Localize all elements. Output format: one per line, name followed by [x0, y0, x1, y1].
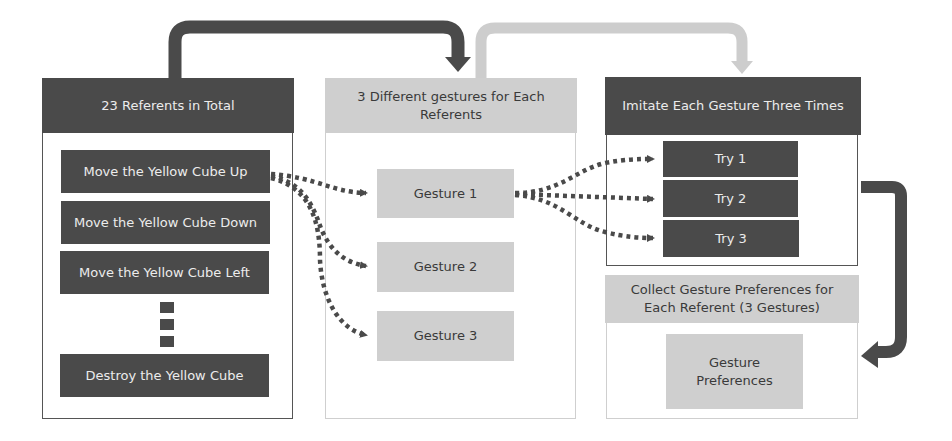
referent-item-label: Move the Yellow Cube Left: [79, 264, 250, 282]
preferences-header-label: Collect Gesture Preferences for Each Ref…: [619, 281, 845, 317]
gestures-header-label: 3 Different gestures for Each Referents: [335, 88, 567, 124]
gesture-item-2: Gesture 2: [377, 242, 514, 292]
referent-item-label: Move the Yellow Cube Down: [74, 214, 257, 232]
try-item-2: Try 2: [663, 180, 798, 217]
imitation-header: Imitate Each Gesture Three Times: [605, 77, 861, 135]
preferences-header: Collect Gesture Preferences for Each Ref…: [605, 275, 859, 323]
gesture-item-label: Gesture 1: [414, 185, 478, 203]
arrow-stage1-to-stage2-icon: [175, 27, 471, 78]
arrow-stage2-to-stage3-icon: [481, 28, 753, 78]
referent-item-move-up: Move the Yellow Cube Up: [61, 150, 270, 193]
try-item-3: Try 3: [663, 220, 799, 257]
referent-item-move-down: Move the Yellow Cube Down: [61, 201, 270, 244]
gesture-item-3: Gesture 3: [377, 311, 514, 361]
referents-header: 23 Referents in Total: [42, 78, 294, 133]
gesture-item-label: Gesture 3: [414, 327, 478, 345]
arrow-stage3-to-stage4-icon: [861, 187, 901, 368]
gesture-preferences-label: Gesture Preferences: [696, 354, 773, 390]
referent-item-label: Move the Yellow Cube Up: [83, 163, 247, 181]
ellipsis-dot-icon: [160, 336, 174, 347]
gesture-item-1: Gesture 1: [377, 169, 514, 218]
ellipsis-dot-icon: [160, 302, 174, 313]
gesture-preferences-box: Gesture Preferences: [666, 334, 803, 409]
try-item-label: Try 3: [715, 230, 746, 248]
try-item-label: Try 1: [715, 150, 746, 168]
referents-header-label: 23 Referents in Total: [101, 97, 234, 115]
try-item-1: Try 1: [663, 141, 798, 177]
try-item-label: Try 2: [715, 190, 746, 208]
gestures-header: 3 Different gestures for Each Referents: [325, 78, 577, 133]
gesture-item-label: Gesture 2: [414, 258, 478, 276]
referent-item-label: Destroy the Yellow Cube: [86, 367, 244, 385]
referent-item-move-left: Move the Yellow Cube Left: [60, 251, 269, 294]
ellipsis-dot-icon: [160, 319, 174, 330]
referent-item-destroy: Destroy the Yellow Cube: [60, 354, 269, 397]
imitation-header-label: Imitate Each Gesture Three Times: [622, 97, 843, 115]
